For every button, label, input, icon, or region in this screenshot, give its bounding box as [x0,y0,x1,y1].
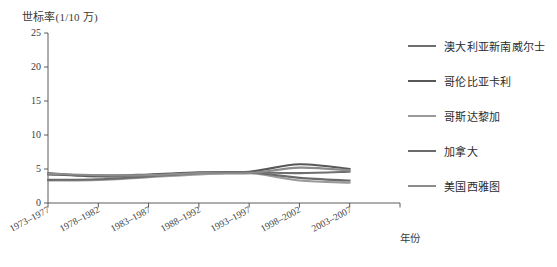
svg-text:15: 15 [31,95,41,106]
svg-text:10: 10 [31,129,41,140]
legend-swatch-icon [408,45,436,47]
svg-text:5: 5 [36,163,41,174]
legend-swatch-icon [408,150,436,152]
legend-item[interactable]: 哥斯达黎加 [408,98,557,133]
series-group [48,164,350,182]
legend-label: 美国西雅图 [444,178,501,194]
svg-text:25: 25 [31,27,41,38]
legend-label: 澳大利亚新南威尔士 [444,38,546,54]
chart-figure: 世标率(1/10 万) 0510152025 1973–19771978–198… [0,0,557,267]
legend-swatch-icon [408,115,436,117]
legend-item[interactable]: 哥伦比亚卡利 [408,63,557,98]
legend-swatch-icon [408,185,436,187]
legend-label: 加拿大 [444,143,478,159]
legend-item[interactable]: 美国西雅图 [408,168,557,203]
legend-item[interactable]: 澳大利亚新南威尔士 [408,28,557,63]
legend-label: 哥伦比亚卡利 [444,73,512,89]
chart-legend: 澳大利亚新南威尔士哥伦比亚卡利哥斯达黎加加拿大美国西雅图 [408,28,557,203]
x-axis-title: 年份 [400,230,420,245]
legend-swatch-icon [408,80,436,82]
legend-label: 哥斯达黎加 [444,108,501,124]
svg-text:20: 20 [31,61,41,72]
legend-item[interactable]: 加拿大 [408,133,557,168]
